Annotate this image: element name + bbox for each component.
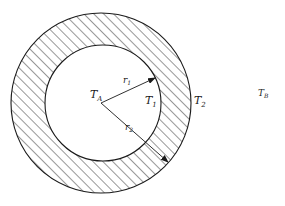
shell-diagram: TA r1 r2 T1 T2 TB	[0, 0, 285, 206]
hatched-wall	[0, 0, 285, 206]
